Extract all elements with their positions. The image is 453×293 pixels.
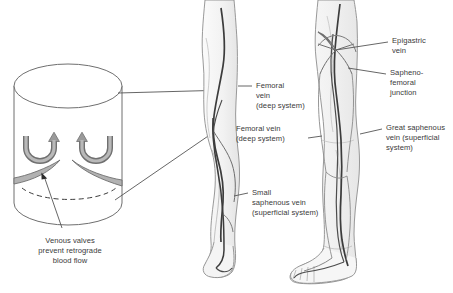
label-line: prevent retrograde <box>18 246 122 256</box>
label-line: saphenous vein <box>252 198 318 208</box>
leader-femoral-vein-deep-right <box>308 136 322 138</box>
label-venous-valve-caption: Venous valves prevent retrograde blood f… <box>18 236 122 267</box>
label-line: Femoral vein <box>236 124 285 134</box>
label-epigastric-vein: Epigastric vein <box>392 36 426 56</box>
label-line: (deep system) <box>256 101 305 111</box>
label-small-saphenous-vein: Small saphenous vein (superficial system… <box>252 188 318 219</box>
label-line: Small <box>252 188 318 198</box>
label-line: Femoral <box>256 81 305 91</box>
label-line: (superficial system) <box>252 208 318 218</box>
leader-valve-to-leg-diagonal <box>115 132 214 200</box>
anterior-leg-view <box>290 0 360 284</box>
label-line: junction <box>390 88 423 98</box>
label-line: vein <box>256 91 305 101</box>
venous-valve-detail-panel <box>14 64 122 228</box>
label-femoral-vein-deep-right: Femoral vein (deep system) <box>236 124 285 144</box>
label-line: Venous valves <box>18 236 122 246</box>
label-line: vein (superficial <box>386 133 445 143</box>
leader-great-saphenous-vein <box>360 129 382 134</box>
posterior-leg-view <box>202 0 239 278</box>
label-line: femoral <box>390 78 423 88</box>
cylinder-top-ellipse <box>14 64 122 108</box>
label-line: system) <box>386 143 445 153</box>
label-line: Sapheno- <box>390 68 423 78</box>
posterior-foot-outline <box>203 242 234 278</box>
label-line: Epigastric <box>392 36 426 46</box>
label-sapheno-femoral-junction: Sapheno- femoral junction <box>390 68 423 99</box>
label-great-saphenous-vein: Great saphenous vein (superficial system… <box>386 123 445 154</box>
label-line: (deep system) <box>236 134 285 144</box>
label-line: blood flow <box>18 256 122 266</box>
label-line: vein <box>392 46 426 56</box>
label-femoral-vein-deep-mid: Femoral vein (deep system) <box>256 81 305 112</box>
label-line: Great saphenous <box>386 123 445 133</box>
